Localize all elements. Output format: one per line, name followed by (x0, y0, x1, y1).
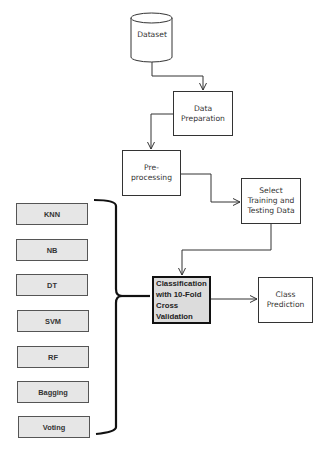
preprocessing-box: Pre- processing (122, 150, 181, 196)
algorithm-box-nb: NB (16, 239, 88, 261)
class-prediction-line-2: Prediction (267, 300, 305, 310)
algorithm-label: KNN (44, 210, 60, 219)
data-preparation-line-1: Data (181, 104, 225, 114)
algorithm-box-rf: RF (17, 346, 89, 368)
class-prediction-box: Class Prediction (258, 277, 313, 323)
preprocessing-line-2: processing (131, 173, 172, 183)
classification-line-3: Cross (156, 300, 207, 311)
data-preparation-line-2: Preparation (181, 114, 225, 124)
algorithm-box-svm: SVM (17, 310, 89, 332)
algorithm-box-knn: KNN (16, 203, 88, 225)
dataset-label: Dataset (131, 30, 173, 39)
flowchart-canvas: Dataset Data Preparation Pre- processing… (0, 0, 331, 452)
algorithm-label: DT (47, 281, 57, 290)
classification-line-1: Classification (156, 278, 207, 289)
select-data-line-2: Training and (247, 196, 294, 206)
preprocessing-line-1: Pre- (131, 163, 172, 173)
edge-select-to-classification (182, 223, 271, 275)
algorithm-box-bagging: Bagging (17, 381, 89, 403)
edge-preparation-to-preprocessing (151, 114, 173, 149)
algorithm-box-voting: Voting (18, 416, 90, 438)
edge-dataset-to-preparation (152, 62, 203, 90)
classification-line-4: Validation (156, 311, 207, 322)
algorithm-label: Bagging (38, 388, 68, 397)
algorithm-label: Voting (43, 423, 65, 432)
algorithm-box-dt: DT (16, 274, 88, 296)
algorithm-label: SVM (45, 317, 61, 326)
curly-brace-icon (94, 200, 122, 434)
select-data-box: Select Training and Testing Data (241, 178, 301, 224)
edge-preprocessing-to-select (180, 174, 240, 202)
data-preparation-box: Data Preparation (173, 91, 233, 136)
algorithm-label: RF (48, 353, 58, 362)
classification-line-2: with 10-Fold (156, 289, 207, 300)
algorithm-label: NB (47, 246, 58, 255)
select-data-line-3: Testing Data (247, 206, 294, 216)
classification-box: Classification with 10-Fold Cross Valida… (152, 276, 211, 324)
select-data-line-1: Select (247, 186, 294, 196)
class-prediction-line-1: Class (267, 290, 305, 300)
